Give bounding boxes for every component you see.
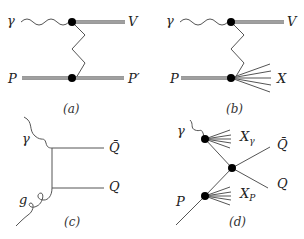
caption-c: (c): [64, 215, 80, 229]
panel-a: γ V P P′ (a): [7, 13, 140, 116]
vertex-bottom-b: [227, 74, 235, 82]
label-dissociated-b: X: [276, 71, 287, 86]
panel-b: γ V P X (b): [166, 13, 298, 116]
label-photon-d: γ: [177, 123, 185, 138]
dissociation-fan-b: [231, 64, 271, 92]
label-proton-in-a: P: [7, 71, 17, 86]
proton-parton-line-d: [205, 168, 232, 196]
label-gluon-c: g: [19, 192, 27, 207]
panel-c: γ Q̄ Q g (c): [16, 117, 120, 229]
label-proton-out-a: P′: [127, 71, 140, 86]
label-photon-a: γ: [7, 13, 15, 28]
label-proton-in-b: P: [169, 71, 179, 86]
label-vector-meson-a: V: [128, 14, 139, 29]
zigzag-exchange-a: [72, 22, 85, 78]
zigzag-exchange-b: [231, 22, 244, 78]
panel-d: γ Xγ Q̄ Q XP P (d): [175, 120, 288, 229]
quark-line-d: [232, 168, 268, 188]
photon-wavy-line-a: [21, 19, 73, 25]
caption-a: (a): [63, 102, 80, 116]
label-proton-remnant-d: XP: [239, 186, 256, 203]
label-proton-d: P: [175, 194, 185, 209]
vertex-bottom-a: [68, 74, 76, 82]
caption-b: (b): [226, 102, 243, 116]
label-photon-b: γ: [166, 13, 174, 28]
caption-d: (d): [229, 215, 246, 229]
label-vector-meson-b: V: [287, 14, 298, 29]
vertex-top-b: [227, 18, 235, 26]
antiquark-line-d: [232, 147, 270, 168]
label-photon-c: γ: [22, 131, 30, 146]
vertex-photon-d: [201, 135, 209, 143]
label-photon-remnant-d: Xγ: [239, 129, 255, 146]
label-quark-c: Q: [109, 179, 120, 194]
label-quark-d: Q: [277, 176, 288, 191]
vertex-top-a: [68, 18, 76, 26]
vertex-proton-d: [201, 192, 209, 200]
label-antiquark-c: Q̄: [109, 140, 120, 155]
label-antiquark-d: Q̄: [277, 137, 288, 152]
feynman-diagrams-figure: γ V P P′ (a) γ V P X (b): [0, 0, 304, 239]
vertex-hard-d: [228, 164, 236, 172]
photon-wavy-line-b: [180, 19, 232, 25]
